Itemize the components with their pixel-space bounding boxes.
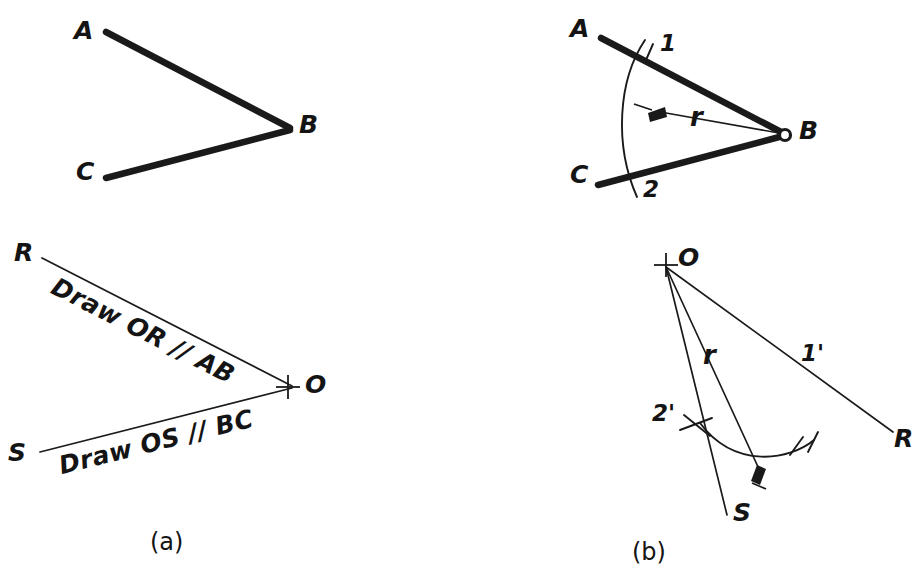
radius-arrow-head-b (751, 465, 766, 485)
line-OR (42, 258, 292, 386)
arc-tick-point-1 (646, 44, 653, 60)
label-A-panel-b: A (570, 14, 590, 43)
label-O-panel-a: O (305, 370, 327, 399)
panel-b-bottom-linework (654, 253, 893, 515)
label-B-panel-a: B (299, 110, 319, 139)
arc-tick-extra-1p (808, 432, 818, 452)
technical-drawing-figure: A B C A B C 1 2 r R S O Draw OR // AB Dr… (0, 0, 923, 577)
label-R-panel-b: R (894, 424, 914, 453)
caption-a: (a) (150, 528, 183, 556)
label-point-1: 1 (660, 30, 676, 56)
label-S-panel-b: S (733, 498, 752, 527)
label-point-2: 2 (643, 176, 659, 202)
construction-arc-1p-2p (700, 423, 814, 457)
label-O-panel-b: O (678, 243, 700, 272)
caption-b: (b) (632, 538, 666, 566)
label-radius-r-top: r (690, 102, 703, 132)
vertex-B-marker (780, 130, 791, 141)
label-radius-r-bottom: r (703, 340, 716, 370)
label-S-panel-a: S (8, 438, 27, 467)
arc-tick-extra-2p (680, 418, 712, 430)
label-A-panel-a: A (74, 16, 94, 45)
label-B-panel-b: B (799, 116, 819, 145)
label-R-panel-a: R (14, 238, 34, 267)
panel-a-top-linework (106, 32, 290, 178)
arc-cross-tick (634, 104, 652, 110)
segment-CB (106, 130, 290, 178)
label-point-2-prime: 2' (652, 400, 675, 426)
figure-linework (0, 0, 923, 577)
label-point-1-prime: 1' (801, 340, 824, 366)
label-C-panel-b: C (570, 160, 589, 189)
arc-tick-point-1p (790, 437, 803, 455)
arc-tick-point-2p (684, 415, 710, 436)
segment-AB (106, 32, 290, 128)
label-C-panel-a: C (76, 157, 95, 186)
